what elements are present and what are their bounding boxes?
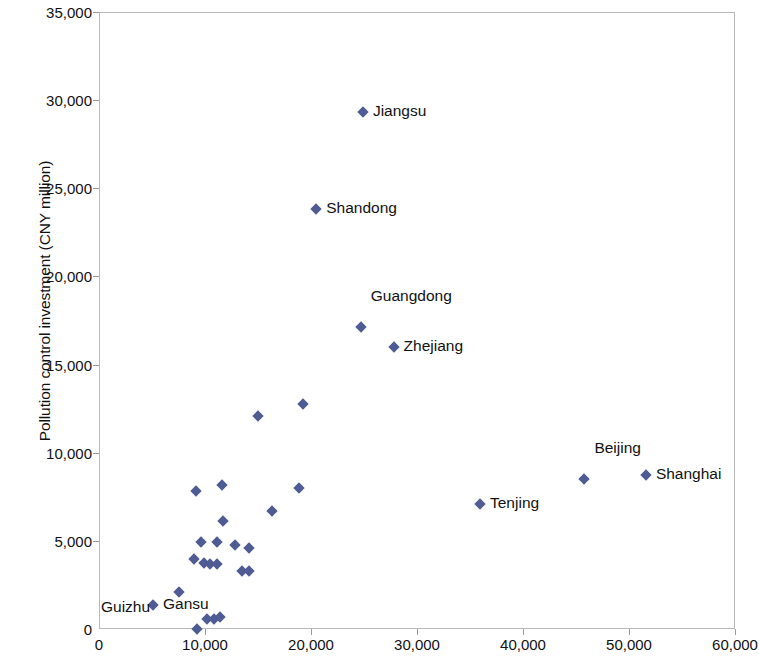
x-tick-label: 50,000 (606, 636, 652, 653)
x-tick-mark (523, 629, 524, 635)
x-tick-mark (311, 629, 312, 635)
data-point-label: Shanghai (656, 465, 722, 483)
x-tick-label: 20,000 (288, 636, 334, 653)
data-point-marker (355, 321, 366, 332)
y-tick-label: 0 (2, 621, 92, 638)
data-point-marker (244, 542, 255, 553)
data-point-marker (211, 558, 222, 569)
y-axis-tick-labels: 05,00010,00015,00020,00025,00030,00035,0… (0, 0, 92, 661)
data-point-marker (191, 623, 202, 634)
data-point-marker (474, 498, 485, 509)
data-point-label: Zhejiang (404, 337, 463, 355)
y-tick-label: 35,000 (2, 4, 92, 21)
y-tick-label: 30,000 (2, 92, 92, 109)
data-point-marker (211, 536, 222, 547)
data-point-marker (297, 398, 308, 409)
data-point-marker (311, 203, 322, 214)
data-point-marker (357, 106, 368, 117)
x-tick-label: 10,000 (182, 636, 228, 653)
data-point-label: Gansu (163, 595, 209, 613)
data-point-label: Guizhu (101, 598, 150, 616)
data-point-label: Shandong (326, 199, 397, 217)
data-point-marker (217, 515, 228, 526)
x-tick-mark (735, 629, 736, 635)
data-point-marker (229, 539, 240, 550)
data-point-marker (579, 473, 590, 484)
data-point-marker (388, 341, 399, 352)
x-tick-mark (629, 629, 630, 635)
x-tick-label: 30,000 (394, 636, 440, 653)
data-point-marker (243, 565, 254, 576)
x-tick-mark (205, 629, 206, 635)
y-tick-label: 5,000 (2, 532, 92, 549)
x-tick-mark (417, 629, 418, 635)
data-point-marker (293, 482, 304, 493)
data-point-label: Tenjing (490, 494, 539, 512)
data-point-marker (190, 485, 201, 496)
plot-area: JiangsuShandongGuangdongZhejiangBeijingS… (99, 12, 735, 629)
y-tick-label: 10,000 (2, 444, 92, 461)
x-tick-label: 40,000 (500, 636, 546, 653)
y-tick-label: 20,000 (2, 268, 92, 285)
x-tick-label: 0 (95, 636, 103, 653)
data-point-marker (216, 479, 227, 490)
data-point-label: Guangdong (371, 287, 452, 305)
data-point-marker (266, 505, 277, 516)
data-point-marker (253, 410, 264, 421)
y-tick-label: 15,000 (2, 356, 92, 373)
data-point-label: Jiangsu (373, 102, 426, 120)
y-tick-label: 25,000 (2, 180, 92, 197)
data-point-label: Beijing (594, 439, 641, 457)
scatter-chart-figure: Pollution control investment (CNY millio… (0, 0, 759, 661)
data-point-marker (196, 536, 207, 547)
x-tick-label: 60,000 (712, 636, 758, 653)
data-point-marker (640, 469, 651, 480)
